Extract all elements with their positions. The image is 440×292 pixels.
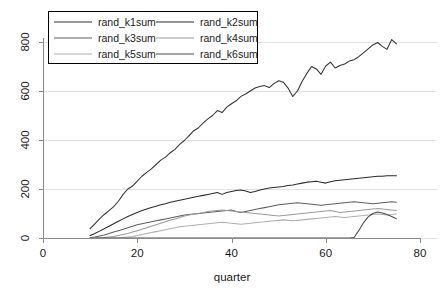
y-tick-label-600: 600 [19, 81, 31, 100]
y-tick-label-0: 0 [19, 235, 31, 241]
x-tick-label-80: 80 [414, 247, 427, 259]
line-chart: 0200400600800020406080 quarter rand_k1su… [0, 0, 440, 292]
y-tick-label-400: 400 [19, 130, 31, 149]
legend-label-rand_k6sum: rand_k6sum [200, 48, 258, 60]
chart-legend: rand_k1sumrand_k2sumrand_k3sumrand_k4sum… [49, 12, 259, 64]
legend-label-rand_k2sum: rand_k2sum [200, 16, 258, 28]
y-tick-label-800: 800 [19, 32, 31, 51]
legend-label-rand_k3sum: rand_k3sum [98, 32, 156, 44]
x-tick-label-60: 60 [319, 247, 332, 259]
legend-label-rand_k4sum: rand_k4sum [200, 32, 258, 44]
legend-label-rand_k1sum: rand_k1sum [98, 16, 156, 28]
chart-figure: 0200400600800020406080 quarter rand_k1su… [0, 0, 440, 292]
y-tick-label-200: 200 [19, 179, 31, 198]
legend-label-rand_k5sum: rand_k5sum [98, 48, 156, 60]
x-tick-label-0: 0 [40, 247, 46, 259]
x-tick-label-40: 40 [225, 247, 238, 259]
x-axis-title: quarter [214, 271, 251, 283]
x-tick-label-20: 20 [131, 247, 144, 259]
